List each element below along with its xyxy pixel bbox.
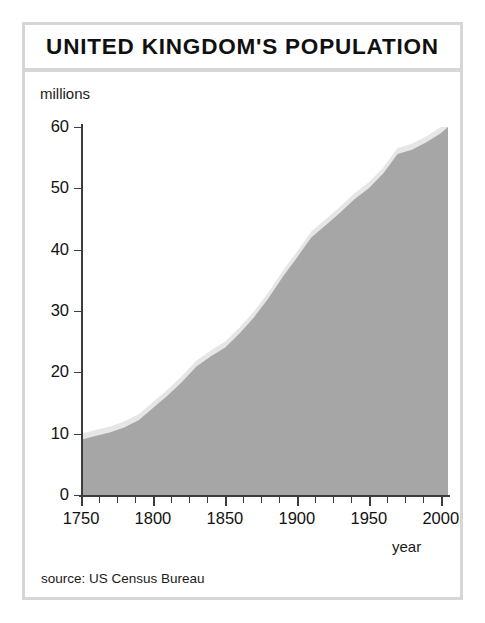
x-axis-minor-tick-mark (405, 497, 406, 503)
x-axis-minor-tick-mark (99, 497, 100, 503)
page-title: UNITED KINGDOM'S POPULATION (46, 34, 439, 60)
x-axis-minor-tick-mark (423, 497, 424, 503)
x-axis-major-tick-mark (369, 497, 371, 506)
x-axis-major-tick-mark (153, 497, 155, 506)
area-series-fill (81, 127, 448, 495)
x-axis-minor-tick-mark (243, 497, 244, 503)
x-axis-major-tick-mark (441, 497, 443, 506)
y-axis-tick-mark (74, 311, 82, 312)
y-axis-tick-mark (74, 495, 82, 496)
x-axis-tick-label: 1750 (63, 509, 100, 528)
y-axis-tick-mark (74, 188, 82, 189)
x-axis-minor-tick-mark (387, 497, 388, 503)
x-axis-tick-label: 2000 (422, 509, 459, 528)
source-note: source: US Census Bureau (41, 571, 205, 586)
x-axis-minor-tick-mark (135, 497, 136, 503)
x-axis-name-label: year (392, 538, 421, 555)
chart-title-band: UNITED KINGDOM'S POPULATION (25, 25, 460, 72)
y-axis-tick-label: 20 (27, 362, 69, 381)
chart-figure-card: UNITED KINGDOM'S POPULATION millions 605… (22, 22, 463, 600)
x-axis-minor-tick-mark (261, 497, 262, 503)
x-axis-minor-tick-mark (189, 497, 190, 503)
y-axis-tick-label: 60 (27, 117, 69, 136)
y-axis-tick-label: 0 (27, 485, 69, 504)
y-axis-unit-label: millions (40, 85, 90, 102)
x-axis-minor-tick-mark (315, 497, 316, 503)
x-axis-major-tick-mark (225, 497, 227, 506)
x-axis-minor-tick-mark (351, 497, 352, 503)
y-axis-tick-label: 40 (27, 240, 69, 259)
population-area-series (81, 127, 448, 495)
x-axis-tick-label: 1950 (350, 509, 387, 528)
y-axis-tick-label: 30 (27, 301, 69, 320)
x-axis-minor-tick-mark (279, 497, 280, 503)
y-axis-tick-label: 50 (27, 178, 69, 197)
chart-body: millions 6050403020100 17501800185019001… (25, 72, 460, 597)
x-axis-minor-tick-mark (171, 497, 172, 503)
x-axis-major-tick-mark (297, 497, 299, 506)
x-axis-tick-label: 1800 (135, 509, 172, 528)
y-axis-tick-label: 10 (27, 424, 69, 443)
x-axis-tick-label: 1850 (207, 509, 244, 528)
x-axis-major-tick-mark (81, 497, 83, 506)
x-axis-minor-tick-mark (207, 497, 208, 503)
y-axis-tick-mark (74, 372, 82, 373)
x-axis-minor-tick-mark (333, 497, 334, 503)
y-axis-tick-mark (74, 434, 82, 435)
x-axis-tick-label: 1900 (279, 509, 316, 528)
x-axis-minor-tick-mark (117, 497, 118, 503)
y-axis-tick-mark (74, 250, 82, 251)
plot-area (81, 127, 448, 495)
y-axis-tick-mark (74, 127, 82, 128)
